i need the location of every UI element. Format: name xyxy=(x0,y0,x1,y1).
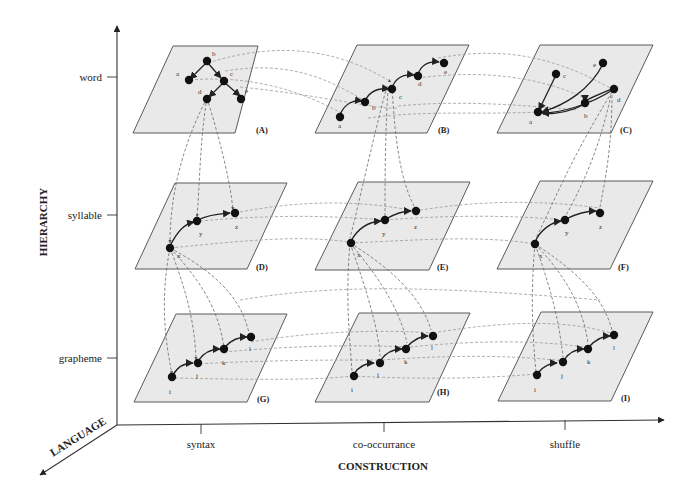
svg-text:c: c xyxy=(563,72,566,80)
panel-label-G: (G) xyxy=(257,394,269,404)
svg-text:c: c xyxy=(399,93,402,101)
svg-text:l: l xyxy=(249,345,251,353)
construction-axis xyxy=(117,420,664,425)
svg-text:y: y xyxy=(199,230,203,238)
svg-text:d: d xyxy=(418,80,422,88)
svg-text:e: e xyxy=(593,61,596,69)
construction-axis-label: CONSTRUCTION xyxy=(338,460,428,472)
svg-text:b: b xyxy=(584,112,588,120)
svg-text:k: k xyxy=(222,359,226,367)
tick-co-occurrance: co-occurrance xyxy=(353,438,415,450)
panel-F xyxy=(497,181,653,269)
svg-text:z: z xyxy=(599,223,602,231)
svg-text:e: e xyxy=(444,68,447,76)
panel-D xyxy=(135,183,287,269)
svg-text:e: e xyxy=(245,87,248,95)
diagram-canvas: word syllable grapheme syntax co-occurra… xyxy=(0,0,697,492)
svg-text:i: i xyxy=(351,386,353,394)
panel-C xyxy=(497,45,653,133)
svg-text:c: c xyxy=(230,70,233,78)
tick-shuffle: shuffle xyxy=(550,438,580,450)
svg-text:k: k xyxy=(587,358,591,366)
svg-text:x: x xyxy=(357,251,361,259)
panel-label-C: (C) xyxy=(620,125,632,135)
panel-label-E: (E) xyxy=(437,262,449,272)
panel-label-A: (A) xyxy=(256,125,268,135)
svg-text:j: j xyxy=(195,372,198,380)
svg-text:l: l xyxy=(431,344,433,352)
tick-grapheme: grapheme xyxy=(59,352,102,364)
svg-text:j: j xyxy=(376,371,379,379)
panel-label-F: (F) xyxy=(618,262,629,272)
panel-label-I: (I) xyxy=(621,393,630,403)
panel-label-D: (D) xyxy=(256,262,268,272)
svg-text:i: i xyxy=(534,386,536,394)
panel-label-H: (H) xyxy=(437,387,449,397)
tick-word: word xyxy=(79,71,102,83)
svg-text:x: x xyxy=(177,252,181,260)
panel-G xyxy=(134,314,287,402)
svg-text:j: j xyxy=(560,372,563,380)
svg-text:y: y xyxy=(565,229,569,237)
svg-text:d: d xyxy=(198,88,202,96)
svg-text:l: l xyxy=(613,344,615,352)
panel-label-B: (B) xyxy=(438,125,450,135)
svg-text:b: b xyxy=(372,104,376,112)
panel-I xyxy=(498,312,653,401)
svg-text:k: k xyxy=(404,358,408,366)
tick-syntax: syntax xyxy=(187,438,216,450)
tick-syllable: syllable xyxy=(68,209,102,221)
svg-text:z: z xyxy=(235,223,238,231)
svg-text:i: i xyxy=(169,388,171,396)
svg-text:b: b xyxy=(212,50,216,58)
svg-text:z: z xyxy=(414,223,417,231)
panel-A xyxy=(133,46,258,133)
panel-E xyxy=(315,182,470,270)
hierarchy-axis-label: HIERARCHY xyxy=(37,188,49,257)
svg-text:d: d xyxy=(617,96,621,104)
svg-text:y: y xyxy=(382,230,386,238)
svg-text:x: x xyxy=(539,252,543,260)
